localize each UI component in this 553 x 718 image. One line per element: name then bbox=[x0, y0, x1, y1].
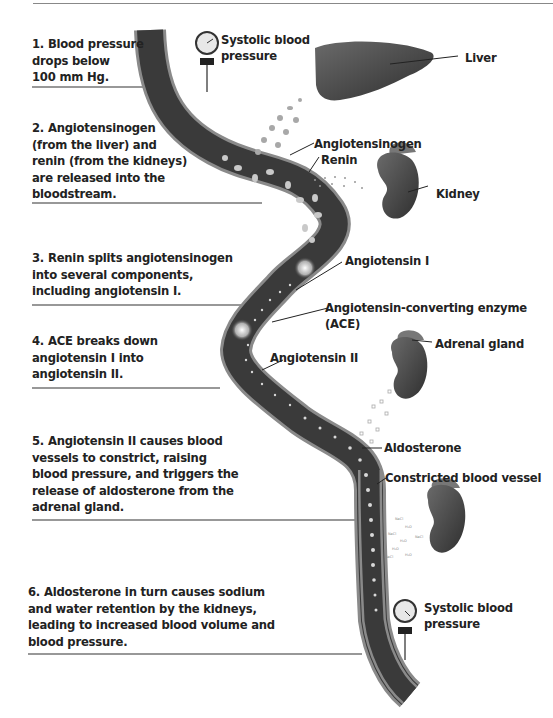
svg-text:H₂O: H₂O bbox=[405, 525, 412, 529]
renin-cell bbox=[294, 257, 316, 279]
kidney-icon bbox=[377, 143, 419, 219]
svg-text:NaCl: NaCl bbox=[415, 535, 423, 539]
label-systolic-top: Systolic bloodpressure bbox=[221, 32, 310, 64]
label-constricted-vessel: Constricted blood vessel bbox=[385, 470, 541, 486]
svg-text:H₂O: H₂O bbox=[405, 553, 412, 557]
label-kidney: Kidney bbox=[436, 186, 480, 202]
svg-text:H₂O: H₂O bbox=[400, 539, 407, 543]
svg-text:H₂O: H₂O bbox=[392, 547, 399, 551]
gauge-icon-top bbox=[196, 32, 218, 92]
liver-icon bbox=[315, 42, 434, 101]
step-1-text: 1. Blood pressuredrops below100 mm Hg. bbox=[32, 36, 144, 86]
step-6-text: 6. Aldosterone in turn causes sodiumand … bbox=[28, 584, 275, 650]
label-systolic-bottom: Systolic bloodpressure bbox=[424, 600, 513, 632]
label-aldosterone: Aldosterone bbox=[384, 440, 461, 456]
label-liver: Liver bbox=[465, 50, 497, 66]
kidney-icon-bottom bbox=[427, 478, 465, 552]
svg-text:NaCl: NaCl bbox=[385, 555, 393, 559]
label-ace: Angiotensin-converting enzyme(ACE) bbox=[325, 300, 527, 332]
step-3-text: 3. Renin splits angiotensinogeninto seve… bbox=[32, 250, 233, 300]
label-angiotensinogen: Angiotensinogen bbox=[314, 136, 422, 152]
ace-cell bbox=[231, 319, 253, 341]
label-renin: Renin bbox=[321, 152, 357, 168]
step-2-text: 2. Angiotensinogen(from the liver) andre… bbox=[32, 120, 187, 203]
step-4-text: 4. ACE breaks downangiotensin I intoangi… bbox=[32, 333, 158, 383]
svg-text:NaCl: NaCl bbox=[388, 532, 396, 536]
label-adrenal-gland: Adrenal gland bbox=[435, 336, 524, 352]
label-angiotensin-2: Angiotensin II bbox=[270, 350, 358, 366]
step-5-text: 5. Angiotensin II causes bloodvessels to… bbox=[32, 433, 239, 516]
liver-secretion-particles bbox=[255, 98, 302, 155]
aldosterone-particles bbox=[360, 390, 391, 443]
label-angiotensin-1: Angiotensin I bbox=[345, 253, 429, 269]
svg-text:NaCl: NaCl bbox=[395, 517, 403, 521]
nacl-h2o-particles: NaClH₂ONaCl H₂ONaClH₂O NaClH₂O bbox=[385, 517, 423, 559]
